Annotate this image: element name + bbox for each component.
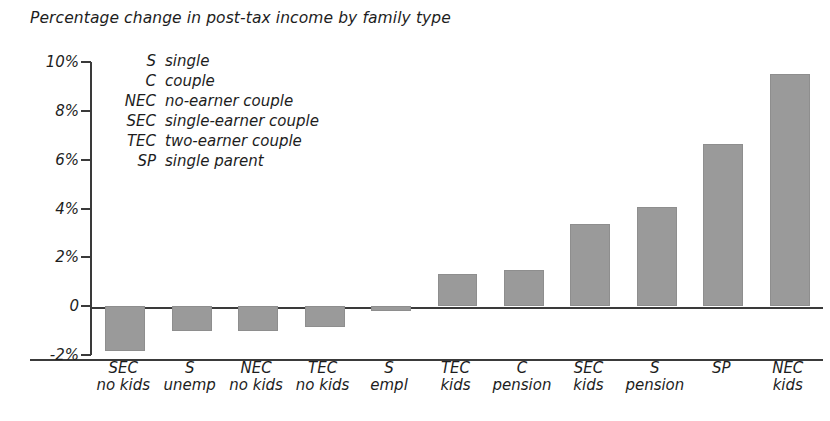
x-tick-label-line1: SP — [688, 360, 754, 377]
bar — [105, 306, 145, 351]
x-tick-label: TECkids — [422, 360, 488, 394]
bar — [438, 274, 478, 306]
y-tick-label: -2% — [50, 346, 79, 364]
y-tick-mark — [81, 208, 91, 210]
x-tick-label-line1: SEC — [555, 360, 621, 377]
x-tick-label-line2: empl — [356, 377, 422, 394]
y-tick-mark — [81, 159, 91, 161]
y-tick-label: 8% — [55, 102, 79, 120]
x-tick-label: SECkids — [555, 360, 621, 394]
y-tick-label: 6% — [55, 151, 79, 169]
x-tick-label-line2: kids — [422, 377, 488, 394]
x-tick-label-line2: unemp — [156, 377, 222, 394]
x-tick-label-line2: no kids — [90, 377, 156, 394]
y-tick-label: 0 — [69, 297, 79, 315]
x-tick-label: Sempl — [356, 360, 422, 394]
x-tick-label: TECno kids — [289, 360, 355, 394]
y-axis-tick-labels: 10%8%6%4%2%0-2% — [30, 62, 79, 355]
bar — [637, 207, 677, 306]
bar — [504, 270, 544, 307]
chart-page: Percentage change in post-tax income by … — [0, 0, 830, 421]
x-tick-label: SP — [688, 360, 754, 377]
page-title: Percentage change in post-tax income by … — [30, 9, 451, 27]
y-tick-mark — [81, 110, 91, 112]
bar — [238, 306, 278, 330]
bar — [371, 306, 411, 311]
bar-series — [92, 62, 823, 355]
x-axis-tick-labels: SECno kidsSunempNECno kidsTECno kidsSemp… — [90, 360, 823, 418]
bar — [305, 306, 345, 327]
y-tick-label: 4% — [55, 200, 79, 218]
x-tick-label-line2: pension — [489, 377, 555, 394]
x-tick-label: NECkids — [755, 360, 821, 394]
bar — [172, 306, 212, 330]
x-tick-label-line1: NEC — [223, 360, 289, 377]
x-tick-label-line2: no kids — [223, 377, 289, 394]
x-tick-label-line1: S — [622, 360, 688, 377]
y-tick-mark — [81, 256, 91, 258]
x-tick-label-line1: TEC — [422, 360, 488, 377]
x-tick-label: Spension — [622, 360, 688, 394]
x-tick-label: NECno kids — [223, 360, 289, 394]
y-tick-mark — [81, 61, 91, 63]
x-tick-label: Cpension — [489, 360, 555, 394]
x-tick-label-line1: TEC — [289, 360, 355, 377]
y-tick-mark — [81, 354, 91, 356]
bar — [770, 74, 810, 306]
x-tick-label-line1: SEC — [90, 360, 156, 377]
x-tick-label-line1: S — [356, 360, 422, 377]
y-tick-label: 10% — [46, 53, 79, 71]
x-tick-label-line1: C — [489, 360, 555, 377]
x-tick-label-line1: NEC — [755, 360, 821, 377]
x-tick-label-line2: kids — [755, 377, 821, 394]
bar — [703, 144, 743, 306]
x-tick-label-line2: no kids — [289, 377, 355, 394]
x-tick-label-line2: pension — [622, 377, 688, 394]
x-tick-label-line1: S — [156, 360, 222, 377]
x-tick-label: Sunemp — [156, 360, 222, 394]
y-tick-label: 2% — [55, 248, 79, 266]
y-tick-mark — [81, 305, 91, 307]
x-tick-label-line2: kids — [555, 377, 621, 394]
bar — [570, 224, 610, 306]
x-tick-label: SECno kids — [90, 360, 156, 394]
plot-area: 10%8%6%4%2%0-2% — [90, 62, 823, 355]
